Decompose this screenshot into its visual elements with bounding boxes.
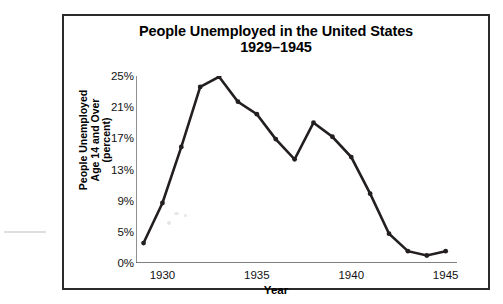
y-axis-tick-label: 0%	[100, 257, 134, 269]
y-axis-tick-label: 5%	[100, 226, 134, 238]
data-point	[349, 155, 354, 160]
y-axis-tick-label: 9%	[100, 195, 134, 207]
chart-title-line-1: People Unemployed in the United States	[139, 23, 413, 39]
data-point-markers	[141, 76, 448, 258]
data-point	[424, 253, 429, 258]
x-axis-tick-label: 1935	[235, 269, 279, 281]
data-point	[160, 201, 165, 206]
y-axis-tick-label: 17%	[100, 132, 134, 144]
x-axis-tick-label: 1940	[329, 269, 373, 281]
data-point	[387, 231, 392, 236]
chart-title-line-2: 1929–1945	[64, 40, 488, 56]
data-point	[254, 112, 259, 117]
data-point	[141, 241, 146, 246]
x-axis-tick-label: 1945	[424, 269, 468, 281]
data-point	[406, 249, 411, 254]
scan-smudge-c	[184, 214, 187, 217]
y-axis-tick-labels: 25%21%17%13%9%5%0%	[94, 76, 134, 263]
scan-artifact-left	[4, 231, 46, 233]
x-axis-tick-label: 1930	[140, 269, 184, 281]
line-chart-svg	[136, 76, 457, 263]
data-point	[330, 134, 335, 139]
x-axis-tick-labels: 1930193519401945	[136, 265, 457, 283]
scan-smudge-b	[167, 221, 171, 225]
data-point	[198, 85, 203, 90]
data-line-unemployment	[144, 77, 446, 256]
data-point	[236, 99, 241, 104]
x-axis-title: Year	[64, 284, 488, 296]
y-axis-tick-label: 21%	[100, 101, 134, 113]
y-axis-tick-label: 25%	[100, 70, 134, 82]
chart-figure: People Unemployed in the United States 1…	[62, 14, 490, 290]
data-point	[292, 157, 297, 162]
data-point	[273, 137, 278, 142]
data-point	[179, 145, 184, 150]
chart-title: People Unemployed in the United States 1…	[64, 24, 488, 55]
data-point	[368, 191, 373, 196]
y-axis-title-line-1: People Unemployed	[77, 90, 89, 190]
plot-area	[136, 76, 457, 263]
scan-smudge-a	[174, 212, 179, 215]
data-point	[311, 120, 316, 125]
y-axis-tick-label: 13%	[100, 164, 134, 176]
data-point	[443, 249, 448, 254]
